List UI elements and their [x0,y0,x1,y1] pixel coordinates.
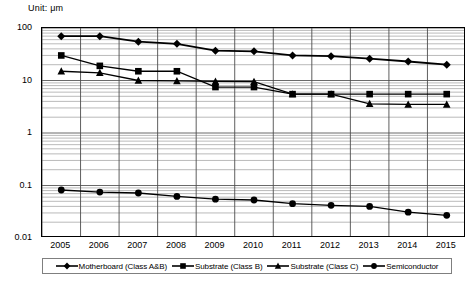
data-point-diamond [173,40,181,48]
legend-label: Substrate (Class C) [290,262,358,271]
x-axis-tick-label: 2008 [166,240,186,250]
legend-marker-triangle-icon [267,261,289,271]
legend-item[interactable]: Substrate (Class C) [267,261,358,271]
y-axis-tick-label: 1 [27,127,32,137]
y-axis-tick-label: 10 [22,75,32,85]
legend-label: Semiconductor [386,262,438,271]
x-axis-tick-label: 2006 [89,240,109,250]
data-point-square [97,63,104,70]
data-point-circle [405,209,412,216]
x-axis-labels: 2005200620072008200920102011201220132014… [41,240,465,254]
data-point-diamond [443,61,451,69]
data-point-circle [289,200,296,207]
data-point-circle [96,189,103,196]
data-point-diamond [63,263,70,270]
legend-label: Substrate (Class B) [195,262,262,271]
data-point-diamond [250,47,258,55]
x-axis-tick-label: 2015 [436,240,456,250]
y-axis-tick-label: 0.1 [19,180,32,190]
x-axis-tick-label: 2009 [204,240,224,250]
data-point-circle [371,263,377,269]
legend-label: Motherboard (Class A&B) [79,262,167,271]
data-point-square [135,68,142,75]
data-point-circle [174,193,181,200]
x-axis-tick-label: 2011 [282,240,301,250]
data-point-diamond [211,47,219,55]
x-axis-tick-label: 2007 [127,240,147,250]
data-point-square [443,91,450,98]
data-point-diamond [57,32,65,40]
x-axis-tick-label: 2010 [243,240,263,250]
legend-item[interactable]: Substrate (Class B) [172,261,262,271]
x-axis-tick-label: 2013 [359,240,379,250]
data-point-diamond [96,32,104,40]
data-point-square [405,91,412,98]
data-point-circle [328,202,335,209]
legend-marker-diamond-icon [56,261,78,271]
data-point-diamond [366,55,374,63]
data-point-diamond [289,51,297,59]
legend-marker-circle-icon [363,261,385,271]
data-point-square [58,52,65,59]
y-axis-tick-label: 100 [17,22,32,32]
data-point-circle [443,212,450,219]
plot-area [41,27,465,237]
data-point-square [212,84,219,91]
legend-item[interactable]: Semiconductor [363,261,438,271]
data-point-diamond [134,38,142,46]
x-axis-tick-label: 2014 [397,240,417,250]
x-axis-tick-label: 2005 [50,240,70,250]
data-point-square [366,91,373,98]
data-point-square [180,263,186,269]
legend-marker-square-icon [172,261,194,271]
data-point-diamond [327,52,335,60]
data-point-circle [135,190,142,197]
data-point-circle [212,196,219,203]
data-point-circle [58,187,65,194]
y-axis-labels: 1001010.10.01 [0,0,38,287]
y-axis-tick-label: 0.01 [14,232,32,242]
data-point-circle [251,197,258,204]
data-point-diamond [404,58,412,66]
chart-legend: Motherboard (Class A&B)Substrate (Class … [42,258,452,274]
legend-item[interactable]: Motherboard (Class A&B) [56,261,167,271]
x-axis-tick-label: 2012 [320,240,340,250]
chart-container: Unit: μm 1001010.10.01 20052006200720082… [0,0,476,287]
series-lines [42,28,464,236]
data-point-square [174,68,181,75]
data-point-circle [366,203,373,210]
